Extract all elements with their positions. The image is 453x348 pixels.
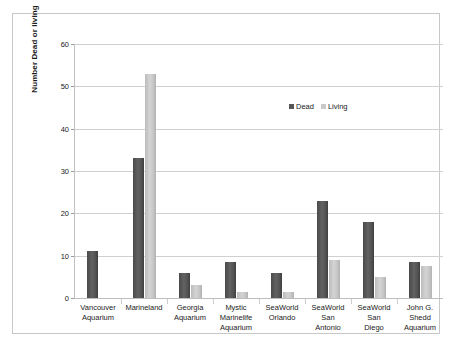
x-axis-separator (121, 299, 122, 304)
chart-frame: Number Dead or living VancouverAquariumM… (12, 13, 440, 334)
bar-dead (317, 201, 328, 298)
bar-living (375, 277, 386, 298)
bar-living (237, 292, 248, 298)
x-axis-separator (397, 299, 398, 304)
bar-living (191, 285, 202, 298)
y-tick-label-0: 0 (43, 294, 69, 303)
y-tick-mark-30 (71, 171, 74, 172)
bar-group (351, 44, 397, 298)
bar-living (329, 260, 340, 298)
bar-dead (225, 262, 236, 298)
bar-living (145, 74, 156, 298)
bar-dead (179, 273, 190, 298)
living-swatch-icon (321, 104, 326, 109)
x-axis-label-line: Aquarium (206, 323, 266, 333)
bar-living (283, 292, 294, 298)
y-tick-mark-60 (71, 44, 74, 45)
bar-dead (271, 273, 282, 298)
y-tick-label-50: 50 (43, 82, 69, 91)
bar-group (305, 44, 351, 298)
bar-dead (87, 251, 98, 298)
y-tick-label-40: 40 (43, 124, 69, 133)
x-axis-separator (351, 299, 352, 304)
x-axis-label-line: Shedd (390, 313, 450, 323)
y-axis-title: Number Dead or living (30, 0, 39, 114)
bar-group (167, 44, 213, 298)
legend-label-living: Living (328, 102, 348, 111)
legend-item-living: Living (321, 102, 348, 111)
bar-group (213, 44, 259, 298)
y-tick-label-20: 20 (43, 209, 69, 218)
bar-group (397, 44, 443, 298)
x-axis-separator (213, 299, 214, 304)
bar-group (75, 44, 121, 298)
y-tick-mark-40 (71, 129, 74, 130)
chart-legend: Dead Living (289, 102, 348, 111)
x-axis-label-line: Aquarium (390, 323, 450, 333)
y-tick-label-30: 30 (43, 167, 69, 176)
legend-label-dead: Dead (296, 102, 314, 111)
x-axis-label: John G.SheddAquarium (390, 303, 450, 333)
bar-dead (133, 158, 144, 298)
x-axis-label-line: Aquarium (68, 313, 128, 323)
bar-living (421, 266, 432, 298)
bars-layer (75, 44, 443, 298)
bar-group (121, 44, 167, 298)
y-tick-mark-20 (71, 213, 74, 214)
dead-swatch-icon (289, 104, 294, 109)
legend-item-dead: Dead (289, 102, 314, 111)
y-tick-mark-0 (71, 298, 74, 299)
bar-dead (363, 222, 374, 298)
y-tick-label-10: 10 (43, 251, 69, 260)
x-axis-labels: VancouverAquariumMarinelandGeorgiaAquari… (75, 303, 443, 348)
bar-group (259, 44, 305, 298)
x-axis-separator (259, 299, 260, 304)
y-tick-mark-10 (71, 256, 74, 257)
y-tick-mark-50 (71, 86, 74, 87)
bar-dead (409, 262, 420, 298)
y-tick-label-60: 60 (43, 40, 69, 49)
x-axis-label-line: John G. (390, 303, 450, 313)
x-axis-separator (167, 299, 168, 304)
x-axis-separator (305, 299, 306, 304)
